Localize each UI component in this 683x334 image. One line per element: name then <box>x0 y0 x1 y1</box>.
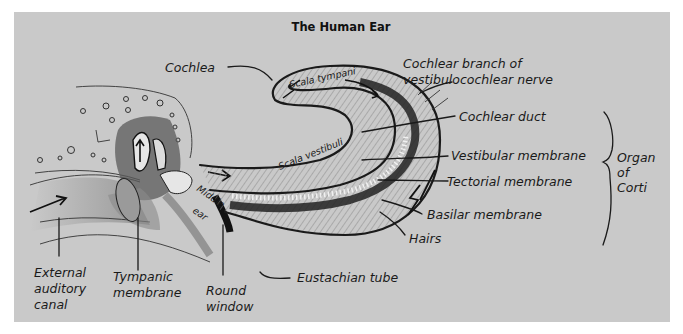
label-external-3: canal <box>34 297 68 312</box>
label-organ-2: of <box>617 165 631 180</box>
label-eustachian-tube: Eustachian tube <box>297 270 398 285</box>
label-external-2: auditory <box>34 281 87 296</box>
label-cochlear-branch-2: vestibulocochlear nerve <box>403 72 553 87</box>
label-round-window-1: Round <box>206 283 246 298</box>
label-tympanic-1: Tympanic <box>113 269 173 284</box>
ear-diagram: The Human Ear <box>0 0 683 334</box>
label-middle-ear-2: ear <box>191 205 211 224</box>
label-cochlear-branch-1: Cochlear branch of <box>403 56 523 71</box>
label-hairs: Hairs <box>409 231 442 246</box>
label-external-1: External <box>34 265 87 280</box>
label-organ-1: Organ <box>617 150 656 165</box>
label-basilar-membrane: Basilar membrane <box>427 207 542 222</box>
label-tectorial-membrane: Tectorial membrane <box>447 174 573 189</box>
label-cochlear-duct: Cochlear duct <box>459 109 547 124</box>
label-cochlea: Cochlea <box>165 60 215 75</box>
label-organ-3: Corti <box>617 180 647 195</box>
label-vestibular-membrane: Vestibular membrane <box>451 148 586 163</box>
label-round-window-2: window <box>206 299 254 314</box>
label-tympanic-2: membrane <box>113 285 182 300</box>
diagram-title: The Human Ear <box>292 20 391 34</box>
